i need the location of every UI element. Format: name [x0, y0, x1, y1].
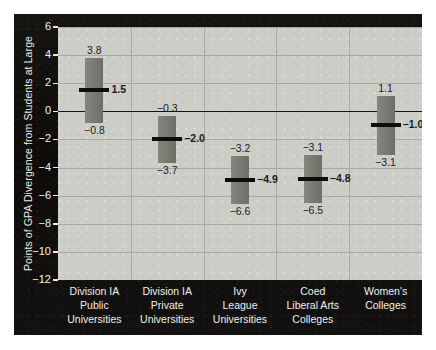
y-axis-tick-label: −4: [38, 162, 51, 173]
chart-figure: Points of GPA Divergence from Students a…: [0, 0, 436, 350]
y-axis-tick-label: 0: [45, 105, 51, 116]
gridline-horizontal: [58, 252, 422, 253]
bar-high-value-label: 3.8: [74, 45, 114, 56]
median-marker: [371, 123, 401, 127]
y-axis-tick: [53, 139, 58, 141]
bar-high-value-label: 1.1: [366, 83, 406, 94]
x-axis-category-4: CoedLiberal ArtsColleges: [276, 283, 349, 333]
category-label-line: Division IA: [131, 284, 204, 298]
zero-reference-line: [58, 111, 422, 113]
bar-low-value-label: −6.6: [220, 206, 260, 217]
bar-low-value-label: −6.5: [293, 205, 333, 216]
bar-median-value-label: −2.0: [184, 133, 205, 144]
bar-median-value-label: 1.5: [111, 84, 126, 95]
bar-low-value-label: −0.8: [74, 125, 114, 136]
y-axis-tick-label: 4: [45, 49, 51, 60]
bar-median-value-label: −4.9: [257, 174, 278, 185]
category-label-line: Universities: [58, 312, 131, 326]
gridline-horizontal: [58, 139, 422, 140]
median-marker: [152, 137, 182, 141]
median-marker: [225, 178, 255, 182]
gridline-horizontal: [58, 27, 422, 28]
category-label-line: Public: [58, 298, 131, 312]
category-label-line: Ivy: [204, 284, 277, 298]
y-axis-tick: [53, 195, 58, 197]
y-axis-tick: [53, 83, 58, 85]
category-label-line: Liberal Arts: [276, 298, 349, 312]
bar-median-value-label: −1.0: [403, 119, 422, 130]
x-axis-category-labels: Division IAPublicUniversitiesDivision IA…: [58, 283, 422, 333]
bar-low-value-label: −3.7: [147, 165, 187, 176]
bar-high-value-label: −3.1: [293, 142, 333, 153]
category-label-line: Universities: [131, 312, 204, 326]
y-axis-tick-label: −12: [32, 274, 51, 285]
category-label-line: League: [204, 298, 277, 312]
y-axis-tick: [53, 251, 58, 253]
category-label-line: Coed: [276, 284, 349, 298]
category-label-line: Private: [131, 298, 204, 312]
y-axis-tick-label: 2: [45, 77, 51, 88]
category-label-line: Universities: [204, 312, 277, 326]
x-axis-category-5: Women'sColleges: [349, 283, 422, 333]
y-axis-tick-label: 6: [45, 21, 51, 32]
gridline-vertical: [276, 27, 277, 280]
category-label-line: Colleges: [276, 312, 349, 326]
y-axis-tick-label: −6: [38, 190, 51, 201]
y-axis-tick: [53, 111, 58, 113]
category-label-line: Division IA: [58, 284, 131, 298]
bar-high-value-label: −3.2: [220, 143, 260, 154]
category-label-line: Women's: [349, 284, 422, 298]
median-marker: [298, 177, 328, 181]
y-axis-tick-label: −2: [38, 133, 51, 144]
gridline-vertical: [349, 27, 350, 280]
gridline-vertical: [131, 27, 132, 280]
bar-median-value-label: −4.8: [330, 173, 351, 184]
y-axis-tick: [53, 167, 58, 169]
category-label-line: Colleges: [349, 298, 422, 312]
y-axis-tick: [53, 54, 58, 56]
x-axis-category-3: IvyLeagueUniversities: [204, 283, 277, 333]
y-axis-tick: [53, 223, 58, 225]
y-axis-tick: [53, 26, 58, 28]
x-axis-category-1: Division IAPublicUniversities: [58, 283, 131, 333]
gridline-horizontal: [58, 224, 422, 225]
bar-low-value-label: −3.1: [366, 157, 406, 168]
y-axis-tick-label: −10: [32, 246, 51, 257]
plot-area: 3.8−0.81.5−0.3−3.7−2.0−3.2−6.6−4.9−3.1−6…: [58, 27, 422, 280]
bar-high-value-label: −0.3: [147, 103, 187, 114]
y-axis-tick-label: −8: [38, 218, 51, 229]
y-axis-tick: [53, 279, 58, 281]
y-axis-title: Points of GPA Divergence from Students a…: [20, 27, 36, 280]
x-axis-category-2: Division IAPrivateUniversities: [131, 283, 204, 333]
median-marker: [79, 88, 109, 92]
gridline-vertical: [204, 27, 205, 280]
